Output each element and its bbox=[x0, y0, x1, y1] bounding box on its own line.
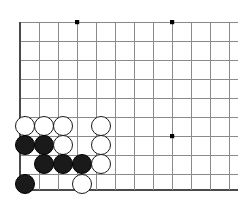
white-stone[interactable] bbox=[53, 135, 73, 155]
white-stone[interactable] bbox=[72, 174, 92, 194]
black-stone[interactable] bbox=[34, 135, 54, 155]
white-stone[interactable] bbox=[91, 135, 111, 155]
black-stone[interactable] bbox=[15, 135, 35, 155]
white-stone[interactable] bbox=[91, 116, 111, 136]
stone-layer[interactable] bbox=[0, 0, 244, 212]
black-stone[interactable] bbox=[15, 174, 35, 194]
white-stone[interactable] bbox=[34, 116, 54, 136]
black-stone[interactable] bbox=[72, 154, 92, 174]
white-stone[interactable] bbox=[15, 116, 35, 136]
black-stone[interactable] bbox=[53, 154, 73, 174]
white-stone[interactable] bbox=[91, 154, 111, 174]
go-board[interactable] bbox=[0, 0, 244, 212]
black-stone[interactable] bbox=[34, 154, 54, 174]
white-stone[interactable] bbox=[53, 116, 73, 136]
go-diagram-root bbox=[0, 0, 244, 212]
